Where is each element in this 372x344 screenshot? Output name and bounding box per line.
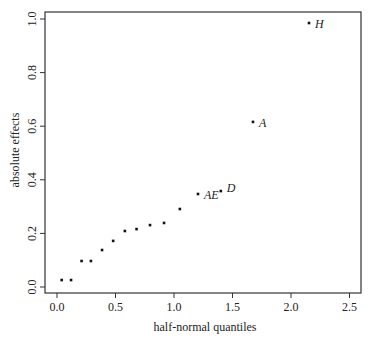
x-axis-title: half-normal quantiles xyxy=(154,320,257,334)
data-point xyxy=(197,193,200,196)
y-axis-title: absolute effects xyxy=(8,112,22,187)
y-tick-label: 0.0 xyxy=(25,280,39,295)
point-label: AE xyxy=(203,188,219,202)
x-tick-label: 2.5 xyxy=(342,300,357,314)
data-points: AEDAH xyxy=(60,17,325,281)
y-tick-label: 0.8 xyxy=(25,65,39,80)
x-tick-label: 1.5 xyxy=(225,300,240,314)
data-point xyxy=(135,228,138,231)
point-label: D xyxy=(226,181,236,195)
x-tick-label: 0.5 xyxy=(108,300,123,314)
data-point xyxy=(90,260,93,263)
data-point xyxy=(80,260,83,263)
x-axis: 0.00.51.01.52.02.5 xyxy=(50,293,358,314)
data-point xyxy=(252,121,255,124)
x-tick-label: 0.0 xyxy=(50,300,65,314)
data-point xyxy=(101,249,104,252)
data-point xyxy=(308,22,311,25)
x-tick-label: 1.0 xyxy=(167,300,182,314)
y-tick-label: 0.2 xyxy=(25,226,39,241)
data-point xyxy=(163,222,166,225)
data-point xyxy=(220,190,223,193)
y-tick-label: 0.4 xyxy=(25,172,39,187)
x-tick-label: 2.0 xyxy=(284,300,299,314)
point-label: H xyxy=(314,17,325,31)
half-normal-plot: 0.00.51.01.52.02.5 0.00.20.40.60.81.0 AE… xyxy=(0,0,372,344)
y-axis: 0.00.20.40.60.81.0 xyxy=(25,12,45,295)
plot-frame xyxy=(45,12,361,293)
data-point xyxy=(112,240,115,243)
y-tick-label: 1.0 xyxy=(25,12,39,27)
data-point xyxy=(70,279,73,282)
y-tick-label: 0.6 xyxy=(25,119,39,134)
data-point xyxy=(179,208,182,211)
data-point xyxy=(60,279,63,282)
data-point xyxy=(124,230,127,233)
data-point xyxy=(149,224,152,227)
point-label: A xyxy=(258,116,267,130)
